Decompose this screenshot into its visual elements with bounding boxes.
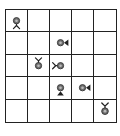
board-cell[interactable]: [72, 77, 94, 99]
board-cell[interactable]: [72, 32, 94, 54]
board-cell[interactable]: [72, 10, 94, 32]
board-cell[interactable]: [50, 10, 72, 32]
board-cell[interactable]: [28, 10, 50, 32]
board-cell[interactable]: [72, 100, 94, 122]
board-cell[interactable]: [94, 77, 116, 99]
board-cell[interactable]: [94, 32, 116, 54]
piece-triangle-right-icon: [72, 77, 93, 98]
board-cell[interactable]: [6, 55, 28, 77]
board-cell[interactable]: [28, 77, 50, 99]
board-cell[interactable]: [50, 100, 72, 122]
board-cell[interactable]: [28, 100, 50, 122]
board-cell[interactable]: [94, 100, 116, 122]
board-cell[interactable]: [6, 77, 28, 99]
board-cell[interactable]: [72, 55, 94, 77]
board-cell[interactable]: [6, 100, 28, 122]
board-cell[interactable]: [50, 77, 72, 99]
board-cell[interactable]: [94, 10, 116, 32]
board-cell[interactable]: [94, 55, 116, 77]
piece-legs-up-icon: [94, 100, 116, 122]
piece-legs-down-icon: [6, 10, 27, 31]
board-cell[interactable]: [28, 55, 50, 77]
board-cell[interactable]: [50, 55, 72, 77]
board-cell[interactable]: [50, 32, 72, 54]
board-cell[interactable]: [6, 32, 28, 54]
piece-triangle-right-icon: [50, 32, 71, 53]
piece-triangle-down-icon: [50, 77, 71, 98]
board-cell[interactable]: [6, 10, 28, 32]
piece-legs-left-icon: [50, 55, 71, 76]
piece-legs-up-icon: [28, 55, 49, 76]
board-cell[interactable]: [28, 32, 50, 54]
game-board: [5, 9, 117, 123]
